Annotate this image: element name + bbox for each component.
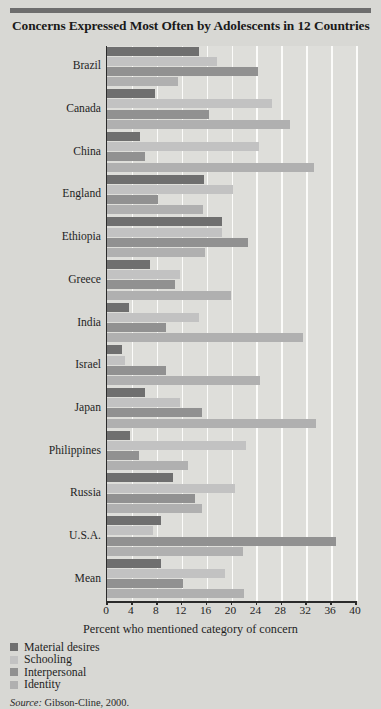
bar <box>107 441 246 450</box>
bar <box>107 388 145 397</box>
bar <box>107 569 225 578</box>
bar <box>107 376 260 385</box>
page-title: Concerns Expressed Most Often by Adolesc… <box>12 18 372 34</box>
legend-label: Identity <box>24 677 61 692</box>
bar <box>107 67 258 76</box>
chart-page: Concerns Expressed Most Often by Adolesc… <box>0 0 381 709</box>
category-label: Ethiopia <box>0 230 101 243</box>
x-tick-label: 32 <box>299 604 310 616</box>
bar <box>107 195 158 204</box>
bar <box>107 579 183 588</box>
bar <box>107 345 122 354</box>
bar <box>107 559 161 568</box>
bar <box>107 504 202 513</box>
bar <box>107 260 150 269</box>
gridline <box>182 46 184 601</box>
gridline <box>256 46 258 601</box>
bar <box>107 461 188 470</box>
category-label: Brazil <box>0 59 101 72</box>
category-label: China <box>0 145 101 158</box>
category-label: Israel <box>0 358 101 371</box>
category-label: Russia <box>0 486 101 499</box>
category-label: Greece <box>0 273 101 286</box>
bar <box>107 484 235 493</box>
bar <box>107 175 204 184</box>
bar <box>107 280 175 289</box>
bar <box>107 408 202 417</box>
category-label: England <box>0 187 101 200</box>
legend-item: Identity <box>10 679 100 692</box>
bar <box>107 473 173 482</box>
legend-swatch-icon <box>10 668 18 676</box>
category-label: Philippines <box>0 444 101 457</box>
category-label: Japan <box>0 401 101 414</box>
category-axis-labels: BrazilCanadaChinaEnglandEthiopiaGreeceIn… <box>0 46 101 601</box>
bar <box>107 77 178 86</box>
gridline <box>281 46 283 601</box>
x-tick-label: 4 <box>128 604 134 616</box>
gridline <box>232 46 234 601</box>
bar <box>107 419 316 428</box>
bar <box>107 47 199 56</box>
gridline <box>356 46 358 601</box>
legend-swatch-icon <box>10 681 18 689</box>
bar <box>107 313 199 322</box>
header-rule <box>10 8 371 13</box>
category-label: U.S.A. <box>0 529 101 542</box>
bar <box>107 291 231 300</box>
gridline <box>306 46 308 601</box>
bar <box>107 57 217 66</box>
bar <box>107 120 290 129</box>
bar <box>107 228 222 237</box>
bar <box>107 537 336 546</box>
bar <box>107 142 259 151</box>
legend: Material desiresSchoolingInterpersonalId… <box>10 641 100 691</box>
bar <box>107 185 233 194</box>
x-tick-label: 40 <box>349 604 360 616</box>
bar <box>107 333 303 342</box>
bar <box>107 323 166 332</box>
plot-inner <box>107 46 356 601</box>
x-tick-label: 8 <box>153 604 159 616</box>
source-label: Source: <box>10 697 42 708</box>
legend-swatch-icon <box>10 656 18 664</box>
bar <box>107 356 125 365</box>
x-axis-title: Percent who mentioned category of concer… <box>0 622 381 637</box>
bar <box>107 248 205 257</box>
gridline <box>207 46 209 601</box>
bar <box>107 217 222 226</box>
bar <box>107 526 153 535</box>
source-note: Source: Gibson-Cline, 2000. <box>10 697 129 708</box>
x-tick-label: 20 <box>225 604 236 616</box>
x-axis-tick-labels: 0481216202428323640 <box>106 604 355 620</box>
bar <box>107 494 195 503</box>
bar <box>107 152 145 161</box>
source-text: Gibson-Cline, 2000. <box>42 697 129 708</box>
plot-area <box>106 46 356 601</box>
bar <box>107 451 139 460</box>
bar <box>107 270 180 279</box>
x-tick-label: 36 <box>324 604 335 616</box>
category-label: India <box>0 316 101 329</box>
bar <box>107 431 130 440</box>
bar <box>107 205 203 214</box>
x-tick-label: 0 <box>103 604 109 616</box>
bar <box>107 99 272 108</box>
x-tick-label: 16 <box>200 604 211 616</box>
gridline <box>331 46 333 601</box>
category-label: Mean <box>0 572 101 585</box>
legend-swatch-icon <box>10 643 18 651</box>
x-tick-label: 12 <box>175 604 186 616</box>
bar <box>107 366 166 375</box>
bar <box>107 163 314 172</box>
category-label: Canada <box>0 102 101 115</box>
bar <box>107 132 140 141</box>
bar <box>107 589 244 598</box>
bar <box>107 110 209 119</box>
bar <box>107 516 161 525</box>
x-tick-label: 24 <box>250 604 261 616</box>
bar <box>107 238 248 247</box>
bar <box>107 89 155 98</box>
x-tick-label: 28 <box>275 604 286 616</box>
bar <box>107 398 180 407</box>
